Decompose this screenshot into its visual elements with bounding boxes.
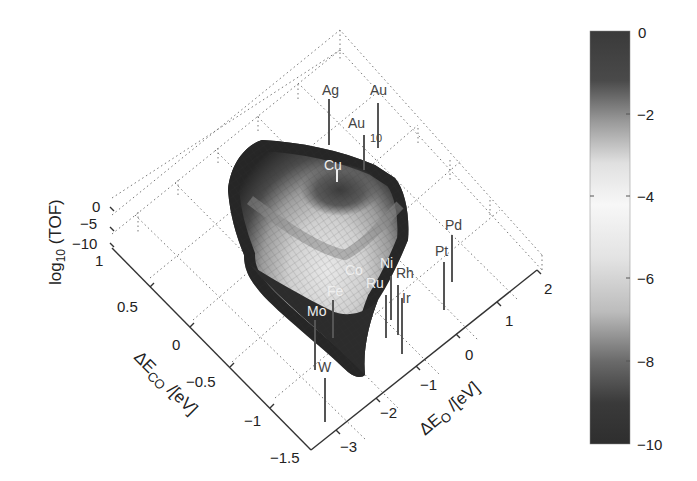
svg-text:2: 2 — [544, 280, 552, 297]
label-mo: Mo — [307, 303, 327, 319]
svg-text:−8: −8 — [637, 353, 654, 370]
label-w: W — [318, 359, 332, 375]
svg-text:0.5: 0.5 — [117, 298, 138, 315]
svg-text:−10: −10 — [637, 436, 662, 453]
label-pd: Pd — [445, 217, 462, 233]
svg-text:0: 0 — [172, 336, 180, 353]
svg-text:−1: −1 — [420, 376, 437, 393]
colorbar: 0 −2 −4 −6 −8 −10 — [590, 24, 662, 453]
svg-text:−3: −3 — [340, 438, 357, 455]
svg-text:−10: −10 — [72, 235, 97, 252]
svg-text:−4: −4 — [637, 188, 654, 205]
svg-text:0: 0 — [638, 24, 646, 41]
svg-text:−1: −1 — [244, 412, 261, 429]
svg-text:0: 0 — [92, 198, 100, 215]
svg-text:−1.5: −1.5 — [270, 449, 300, 466]
svg-text:−5: −5 — [80, 215, 97, 232]
label-ni: Ni — [380, 255, 393, 271]
svg-text:0: 0 — [465, 346, 473, 363]
label-ru: Ru — [366, 275, 384, 291]
label-co: Co — [345, 262, 363, 278]
volcano-surface-plot: Ag Au Au 10 Cu Pd Pt Ni Co Rh Ru Fe Ir M… — [0, 0, 697, 481]
svg-text:−2: −2 — [637, 106, 654, 123]
z-axis-label: log10 (TOF) — [46, 199, 68, 285]
svg-text:−2: −2 — [380, 404, 397, 421]
label-fe: Fe — [327, 283, 344, 299]
label-au10: Au — [348, 115, 365, 131]
colorbar-gradient — [590, 31, 630, 444]
svg-text:−6: −6 — [637, 270, 654, 287]
z-axis-ticks: 0 −5 −10 — [72, 198, 100, 252]
svg-text:−0.5: −0.5 — [186, 373, 216, 390]
label-ir: Ir — [402, 290, 411, 306]
label-cu: Cu — [324, 157, 342, 173]
svg-text:1: 1 — [95, 252, 103, 269]
label-ag: Ag — [322, 82, 339, 98]
label-pt: Pt — [435, 243, 448, 259]
svg-text:1: 1 — [505, 312, 513, 329]
label-rh: Rh — [396, 265, 414, 281]
label-au: Au — [370, 82, 387, 98]
label-au10-sub: 10 — [370, 132, 382, 144]
